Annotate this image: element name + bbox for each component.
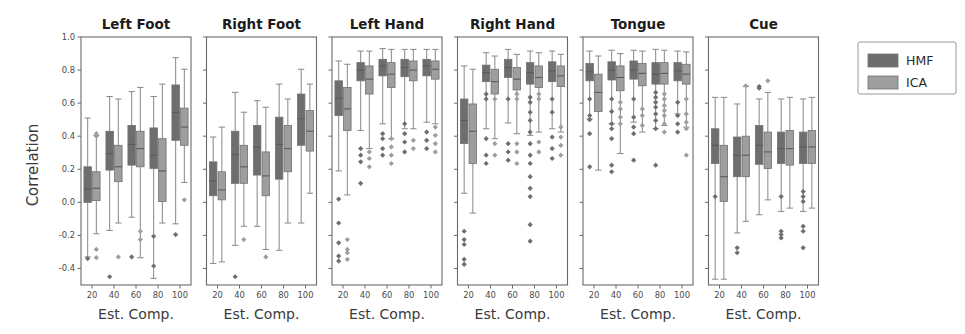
x-tick-label: 80 [153,290,164,300]
box-ica-80 [661,50,668,134]
box-body [128,125,135,165]
box-ica-60 [262,107,269,259]
boxplot-figure: Left Foot-0.4-0.20.00.20.40.60.81.020406… [0,0,965,334]
outlier-marker [528,100,533,105]
outlier-marker [653,100,658,105]
outlier-marker [662,91,667,96]
outlier-marker [631,96,636,101]
outlier-marker [484,161,489,166]
outlier-marker [536,91,541,96]
outlier-marker [138,229,143,234]
panel-frame [207,37,317,285]
outlier-marker [402,149,407,154]
outlier-marker [528,141,533,146]
outlier-marker [631,158,636,163]
x-tick-label: 80 [529,290,540,300]
outlier-marker [345,250,350,255]
outlier-marker [609,136,614,141]
outlier-marker [653,95,658,100]
box-body [159,139,166,202]
box-ica-20 [595,56,602,170]
outlier-marker [380,146,385,151]
box-ica-40 [742,83,749,221]
outlier-marker [609,96,614,101]
box-ica-40 [617,54,624,154]
x-tick-label: 40 [234,290,245,300]
outlier-marker [558,143,563,148]
x-tick-label: 40 [485,290,496,300]
outlier-marker [528,95,533,100]
outlier-marker [336,196,341,201]
outlier-marker [779,194,784,199]
outlier-marker [587,131,592,136]
x-tick-label: 40 [611,290,622,300]
outlier-marker [345,237,350,242]
outlier-marker [484,136,489,141]
x-tick-label: 100 [800,290,816,300]
box-body [652,63,659,84]
x-tick-label: 80 [780,290,791,300]
box-hmf-60 [128,92,135,260]
outlier-marker [380,131,385,136]
legend-swatch-ica [868,76,898,89]
panel-tongue: Tongue20406080100Est. Comp. [580,16,694,322]
outlier-marker [402,139,407,144]
box-hmf-100 [172,58,179,238]
outlier-marker [684,96,689,101]
outlier-marker [514,91,519,96]
box-ica-20 [720,97,727,279]
box-ica-20 [469,69,476,213]
box-hmf-40 [733,104,740,255]
outlier-marker [411,146,416,151]
outlier-marker [173,232,178,237]
x-tick-label: 60 [382,290,393,300]
outlier-marker [492,96,497,101]
x-tick-label: 60 [633,290,644,300]
box-body [150,128,157,169]
box-hmf-80 [275,84,282,250]
outlier-marker [618,121,623,126]
box-hmf-60 [755,84,762,215]
outlier-marker [367,156,372,161]
outlier-marker [801,224,806,229]
panel-left-foot: Left Foot-0.4-0.20.00.20.40.60.81.020406… [59,16,191,322]
box-hmf-60 [630,50,637,163]
box-body [639,63,646,85]
box-body [799,132,806,163]
box-body [388,63,395,88]
outlier-marker [336,253,341,258]
outlier-marker [528,153,533,158]
outlier-marker [492,153,497,158]
box-ica-60 [639,51,646,132]
box-body [504,59,511,77]
outlier-marker [801,245,806,250]
outlier-marker [609,109,614,114]
outlier-marker [735,245,740,250]
box-ica-100 [181,69,188,202]
outlier-marker [506,141,511,146]
outlier-marker [528,194,533,199]
box-ica-100 [557,54,564,157]
outlier-marker [514,141,519,146]
x-tick-label: 100 [674,290,690,300]
outlier-marker [779,235,784,240]
x-tick-label: 100 [423,290,439,300]
outlier-marker [336,220,341,225]
outlier-marker [367,149,372,154]
outlier-marker [94,255,99,260]
outlier-marker [528,222,533,227]
x-tick-label: 20 [87,290,98,300]
box-ica-20 [218,127,225,262]
outlier-marker [684,111,689,116]
box-hmf-80 [777,99,784,240]
box-body [262,152,269,196]
box-hmf-20 [586,51,593,169]
outlier-marker [801,194,806,199]
box-hmf-100 [799,99,806,250]
x-axis-label: Est. Comp. [475,306,551,322]
outlier-marker [345,257,350,262]
box-hmf-40 [608,50,615,174]
box-body [84,167,91,203]
outlier-marker [484,91,489,96]
outlier-marker [550,146,555,151]
